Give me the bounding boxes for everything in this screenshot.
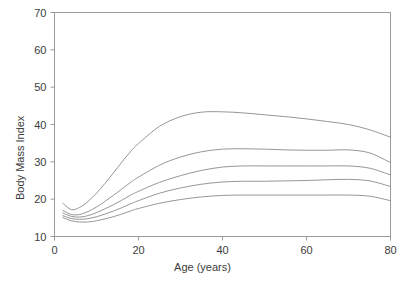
y-axis-label: Body Mass Index [14, 116, 26, 200]
chart-plot-area: 10203040506070020406080 [0, 0, 405, 285]
x-axis-tick-label: 80 [384, 244, 396, 256]
x-axis-tick-label: 0 [51, 244, 57, 256]
x-axis-tick-label: 20 [132, 244, 144, 256]
y-axis-tick-label: 50 [34, 81, 46, 93]
y-axis-tick-label: 60 [34, 44, 46, 56]
x-axis-tick-label: 60 [300, 244, 312, 256]
bmi-centile-chart: 10203040506070020406080 Age (years) Body… [0, 0, 405, 285]
centile-curve-curve-3-median [63, 166, 391, 217]
y-axis-tick-label: 10 [34, 231, 46, 243]
y-axis-tick-label: 20 [34, 193, 46, 205]
y-axis-tick-label: 40 [34, 119, 46, 131]
y-axis-tick-label: 70 [34, 7, 46, 19]
x-axis-label: Age (years) [0, 261, 405, 273]
centile-curve-curve-4 [63, 179, 391, 219]
y-axis-tick-label: 30 [34, 156, 46, 168]
centile-curve-curve-5-lowest [63, 195, 391, 222]
plot-frame [55, 13, 391, 237]
x-axis-tick-label: 40 [216, 244, 228, 256]
